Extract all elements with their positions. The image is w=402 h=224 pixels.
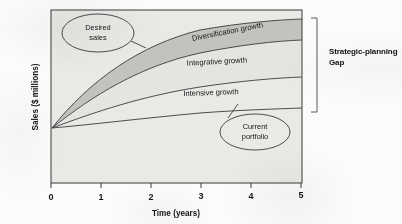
y-axis-title: Sales ($ millions) xyxy=(31,63,40,130)
current-portfolio-line2: portfolio xyxy=(242,132,268,141)
gap-bracket xyxy=(311,18,317,112)
current-portfolio-line1: Current xyxy=(243,122,268,131)
gap-annotation-line2: Gap xyxy=(329,57,401,68)
x-tick-1: 1 xyxy=(98,192,103,202)
gap-annotation-line1: Strategic-planning xyxy=(329,46,401,57)
desired-sales-line2: sales xyxy=(89,33,107,42)
figure-canvas: 0 1 2 3 4 5 Time (years) Sales ($ millio… xyxy=(0,0,402,224)
x-tick-4: 4 xyxy=(248,191,253,201)
strategic-planning-gap-figure: 0 1 2 3 4 5 Time (years) Sales ($ millio… xyxy=(0,0,402,224)
x-axis-ticks xyxy=(51,183,301,188)
x-tick-5: 5 xyxy=(298,190,303,200)
x-tick-2: 2 xyxy=(148,192,153,202)
x-tick-0: 0 xyxy=(48,192,53,202)
x-axis-title: Time (years) xyxy=(152,209,200,218)
desired-sales-line1: Desired xyxy=(85,23,110,32)
strategic-planning-gap-annotation: Strategic-planning Gap xyxy=(329,46,401,68)
x-tick-3: 3 xyxy=(198,191,203,201)
